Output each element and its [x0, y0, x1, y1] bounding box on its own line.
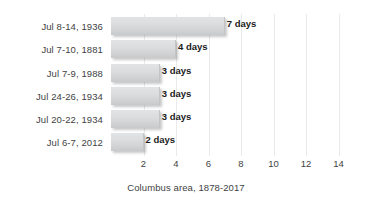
bar-value-label: 3 days — [160, 85, 192, 103]
category-label: Jul 6-7, 2012 — [0, 131, 103, 154]
bar-fill — [111, 110, 160, 128]
category-label: Jul 8-14, 1936 — [0, 15, 103, 38]
bar[interactable] — [111, 64, 160, 82]
bar-value-label: 4 days — [176, 38, 208, 56]
x-tick-label: 4 — [173, 158, 178, 169]
bar-chart: Jul 8-14, 19367 daysJul 7-10, 18814 days… — [0, 0, 372, 209]
bar-row: Jul 20-22, 19343 days — [0, 108, 372, 131]
x-tick-label: 14 — [333, 158, 344, 169]
bar-row: Jul 7-10, 18814 days — [0, 38, 372, 61]
category-label: Jul 7-9, 1988 — [0, 62, 103, 85]
bar[interactable] — [111, 87, 160, 105]
bar-row: Jul 24-26, 19343 days — [0, 85, 372, 108]
bar-value-label: 3 days — [160, 62, 192, 80]
x-tick-label: 12 — [301, 158, 312, 169]
x-tick-label: 10 — [268, 158, 279, 169]
bar-row: Jul 6-7, 20122 days — [0, 131, 372, 154]
bar-fill — [111, 64, 160, 82]
bar[interactable] — [111, 133, 144, 151]
bar[interactable] — [111, 40, 176, 58]
bar-fill — [111, 17, 225, 35]
bar[interactable] — [111, 17, 225, 35]
x-axis: 2468101214 — [0, 158, 372, 174]
category-label: Jul 7-10, 1881 — [0, 38, 103, 61]
bar-row: Jul 7-9, 19883 days — [0, 62, 372, 85]
bar-rows: Jul 8-14, 19367 daysJul 7-10, 18814 days… — [0, 15, 372, 155]
category-label: Jul 24-26, 1934 — [0, 85, 103, 108]
bar-value-label: 2 days — [144, 131, 176, 149]
x-tick-label: 8 — [238, 158, 243, 169]
bar-value-label: 3 days — [160, 108, 192, 126]
bar-fill — [111, 40, 176, 58]
bar-fill — [111, 87, 160, 105]
bar[interactable] — [111, 110, 160, 128]
x-axis-title: Columbus area, 1878-2017 — [0, 182, 372, 193]
x-tick-label: 6 — [206, 158, 211, 169]
bar-row: Jul 8-14, 19367 days — [0, 15, 372, 38]
category-label: Jul 20-22, 1934 — [0, 108, 103, 131]
bar-value-label: 7 days — [225, 15, 257, 33]
x-tick-label: 2 — [141, 158, 146, 169]
bar-fill — [111, 133, 144, 151]
